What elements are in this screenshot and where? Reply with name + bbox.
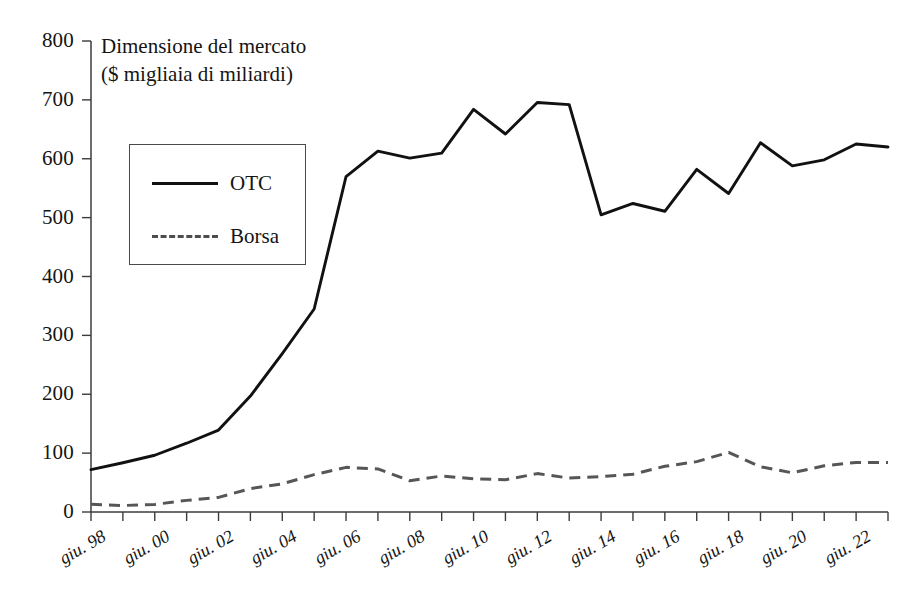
series-line-borsa — [91, 452, 888, 505]
y-tick-label: 500 — [14, 205, 74, 230]
y-tick-label: 100 — [14, 440, 74, 465]
y-tick-label: 200 — [14, 381, 74, 406]
chart-canvas — [0, 0, 912, 608]
axes — [82, 41, 888, 521]
y-tick-label: 700 — [14, 87, 74, 112]
y-tick-label: 600 — [14, 146, 74, 171]
y-tick-label: 400 — [14, 264, 74, 289]
x-axis-ticks — [91, 512, 888, 521]
y-tick-label: 0 — [14, 499, 74, 524]
y-tick-label: 300 — [14, 322, 74, 347]
y-axis-ticks — [82, 41, 91, 512]
y-tick-label: 800 — [14, 28, 74, 53]
chart-figure: Dimensione del mercato ($ migliaia di mi… — [0, 0, 912, 608]
series-line-otc — [91, 102, 888, 469]
